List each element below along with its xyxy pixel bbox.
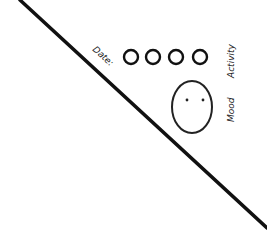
- mood-face[interactable]: [172, 81, 212, 133]
- activity-circles: [124, 50, 207, 64]
- mood-label: Mood: [226, 97, 236, 122]
- sketch-canvas: Date: Activity Mood: [0, 0, 267, 238]
- activity-label: Activity: [226, 44, 236, 79]
- activity-circle-4[interactable]: [193, 50, 207, 64]
- activity-circle-1[interactable]: [124, 50, 138, 64]
- date-label: Date:: [91, 44, 116, 68]
- sketch-svg: Date: Activity Mood: [0, 0, 267, 238]
- face-outline: [172, 81, 212, 133]
- right-eye-icon: [202, 99, 205, 102]
- left-eye-icon: [186, 99, 189, 102]
- activity-circle-2[interactable]: [146, 50, 160, 64]
- activity-circle-3[interactable]: [169, 50, 183, 64]
